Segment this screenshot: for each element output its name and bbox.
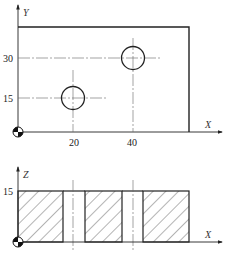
y-tick-15: 15 xyxy=(3,93,13,104)
section-3 xyxy=(143,191,189,242)
datum-origin-icon xyxy=(13,237,23,247)
x-tick-40: 40 xyxy=(127,137,137,148)
section-1 xyxy=(18,191,63,242)
y-tick-30: 30 xyxy=(3,53,13,64)
x-axis-label: X xyxy=(204,119,212,130)
front-view: Z X 15 xyxy=(3,167,222,252)
x-tick-20: 20 xyxy=(69,137,79,148)
top-view: Y X 30 15 20 40 xyxy=(3,5,222,148)
section-2 xyxy=(85,191,122,242)
part-outline xyxy=(18,27,189,132)
centerlines xyxy=(18,38,160,132)
datum-origin-icon xyxy=(13,127,23,137)
z-tick-15: 15 xyxy=(3,186,13,197)
z-axis-label: Z xyxy=(23,169,29,180)
drawing-canvas: Y X 30 15 20 40 xyxy=(0,0,228,263)
front-x-axis-label: X xyxy=(204,229,212,240)
y-axis-label: Y xyxy=(23,7,30,18)
